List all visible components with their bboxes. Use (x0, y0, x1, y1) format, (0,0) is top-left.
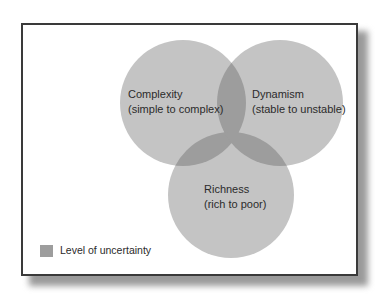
label-complexity: Complexity (simple to complex) (128, 87, 223, 117)
complexity-subtitle: (simple to complex) (128, 102, 223, 117)
richness-title: Richness (204, 182, 266, 197)
richness-subtitle: (rich to poor) (204, 197, 266, 212)
dynamism-subtitle: (stable to unstable) (252, 102, 346, 117)
label-richness: Richness (rich to poor) (204, 182, 266, 212)
complexity-title: Complexity (128, 87, 223, 102)
legend-swatch (40, 245, 53, 257)
legend-label: Level of uncertainty (60, 244, 151, 256)
dynamism-title: Dynamism (252, 87, 346, 102)
label-dynamism: Dynamism (stable to unstable) (252, 87, 346, 117)
venn-diagram (0, 0, 386, 299)
